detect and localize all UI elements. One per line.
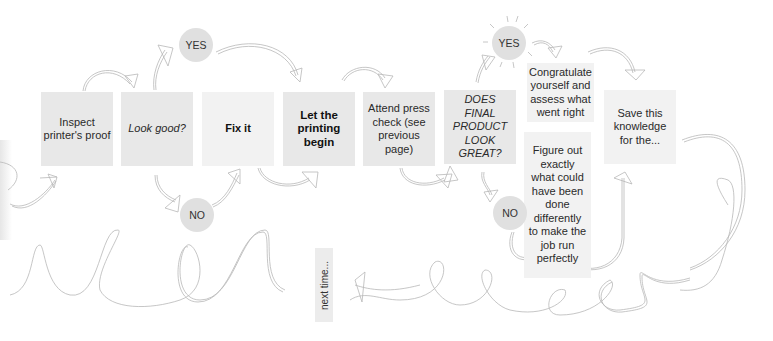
step-let-printing-begin: Let the printing begin	[283, 92, 355, 166]
arrow-icon	[216, 44, 302, 82]
arrow-icon	[532, 41, 562, 58]
hand-drawn-arrows	[0, 0, 773, 341]
step-label: DOES FINAL PRODUCT LOOK GREAT?	[450, 93, 510, 161]
step-next-time: next time...	[315, 248, 333, 322]
step-look-good: Look good?	[121, 92, 193, 166]
step-label: Save this knowledge for the...	[612, 107, 668, 148]
step-label: Inspect printer's proof	[43, 116, 111, 143]
arrow-icon	[588, 48, 645, 80]
decision-no-2: NO	[493, 196, 527, 230]
decision-label: NO	[502, 207, 518, 219]
decision-label: YES	[185, 39, 206, 51]
decision-no-1: NO	[180, 198, 214, 232]
arrow-icon	[258, 168, 318, 188]
step-label: Congratulate yourself and assess what we…	[529, 66, 592, 120]
step-label: next time...	[319, 261, 330, 310]
decision-label: YES	[498, 37, 519, 49]
step-label: Figure out exactly what could have been …	[528, 144, 587, 266]
decision-yes-1: YES	[179, 28, 213, 62]
arrow-icon	[400, 168, 452, 188]
step-label: Attend press check (see previous page)	[365, 102, 433, 156]
arrow-icon	[155, 175, 180, 212]
step-figure-out: Figure out exactly what could have been …	[524, 132, 591, 278]
decision-label: NO	[189, 209, 205, 221]
step-final-product-check: DOES FINAL PRODUCT LOOK GREAT?	[444, 90, 516, 164]
step-inspect-proof: Inspect printer's proof	[41, 92, 113, 166]
step-save-knowledge: Save this knowledge for the...	[604, 90, 676, 164]
arrow-icon	[154, 45, 173, 90]
step-fix-it: Fix it	[202, 92, 274, 166]
arrow-icon	[342, 67, 393, 88]
step-label: Fix it	[225, 122, 251, 136]
arrow-icon	[355, 272, 420, 302]
arrow-icon	[212, 169, 240, 207]
decision-yes-2: YES	[492, 26, 526, 60]
step-congratulate: Congratulate yourself and assess what we…	[527, 63, 594, 122]
arrow-icon	[482, 172, 498, 202]
step-attend-press-check: Attend press check (see previous page)	[363, 92, 435, 166]
arrow-icon	[476, 55, 495, 83]
step-label: Let the printing begin	[289, 109, 349, 150]
arrow-icon	[83, 70, 138, 91]
step-label: Look good?	[128, 122, 186, 136]
